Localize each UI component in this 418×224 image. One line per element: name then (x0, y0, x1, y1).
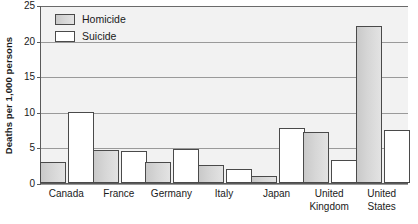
bar-homicide-italy[interactable] (198, 165, 224, 184)
y-axis-tick-label: 20 (24, 37, 35, 47)
x-axis-tick-label-line: United (355, 188, 408, 201)
bar-group (251, 6, 304, 183)
x-axis-tick-label-line: France (93, 188, 146, 201)
bar-suicide-united-states[interactable] (384, 130, 410, 183)
gridline (41, 184, 408, 185)
bar-group (146, 6, 199, 183)
legend-swatch-suicide (55, 31, 75, 42)
legend-swatch-homicide (55, 14, 75, 25)
x-axis-tick-label: France (93, 188, 146, 201)
bar-group (356, 6, 409, 183)
legend-item-homicide[interactable]: Homicide (55, 12, 126, 27)
legend-item-suicide[interactable]: Suicide (55, 29, 126, 44)
x-axis-tick-label: Italy (198, 188, 251, 201)
x-axis-tick-labels: CanadaFranceGermanyItalyJapanUnitedKingd… (40, 188, 408, 224)
bar-suicide-united-kingdom[interactable] (331, 160, 357, 183)
bar-suicide-france[interactable] (121, 151, 147, 183)
bar-homicide-germany[interactable] (145, 162, 171, 183)
y-axis-title: Deaths per 1,000 persons (0, 0, 18, 190)
y-axis-tick-label: 15 (24, 72, 35, 82)
bar-suicide-germany[interactable] (173, 149, 199, 183)
x-axis-tick-label-line: Japan (250, 188, 303, 201)
legend-label: Suicide (82, 31, 116, 42)
legend-label: Homicide (82, 14, 126, 25)
y-axis-tick-label: 5 (29, 143, 35, 153)
bar-homicide-canada[interactable] (40, 162, 66, 183)
y-axis-tickmark (37, 184, 41, 185)
bar-homicide-united-states[interactable] (356, 26, 382, 183)
bar-homicide-united-kingdom[interactable] (303, 132, 329, 183)
bar-group (199, 6, 252, 183)
bar-suicide-canada[interactable] (68, 112, 94, 183)
y-axis-tick-labels: 0510152025 (18, 0, 38, 190)
bar-group (304, 6, 357, 183)
x-axis-tick-label-line: Germany (145, 188, 198, 201)
x-axis-tick-label-line: Italy (198, 188, 251, 201)
y-axis-title-text: Deaths per 1,000 persons (4, 36, 15, 154)
chart-legend: HomicideSuicide (55, 12, 126, 46)
bar-homicide-france[interactable] (93, 150, 119, 183)
x-axis-tick-label-line: Canada (40, 188, 93, 201)
x-axis-tick-label-line: United (303, 188, 356, 201)
plot-area: HomicideSuicide (40, 6, 408, 184)
y-axis-tick-label: 25 (24, 1, 35, 11)
x-axis-tick-label: UnitedStates (355, 188, 408, 213)
x-axis-tick-label: Japan (250, 188, 303, 201)
bar-suicide-japan[interactable] (279, 128, 305, 183)
x-axis-tick-label-line: States (355, 201, 408, 214)
bar-homicide-japan[interactable] (251, 176, 277, 183)
x-axis-tick-label: UnitedKingdom (303, 188, 356, 213)
bar-suicide-italy[interactable] (226, 169, 252, 183)
bar-chart: Deaths per 1,000 persons 0510152025 Homi… (0, 0, 418, 224)
x-axis-tick-label-line: Kingdom (303, 201, 356, 214)
y-axis-tick-label: 0 (29, 179, 35, 189)
y-axis-tick-label: 10 (24, 108, 35, 118)
x-axis-tick-label: Canada (40, 188, 93, 201)
x-axis-tick-label: Germany (145, 188, 198, 201)
